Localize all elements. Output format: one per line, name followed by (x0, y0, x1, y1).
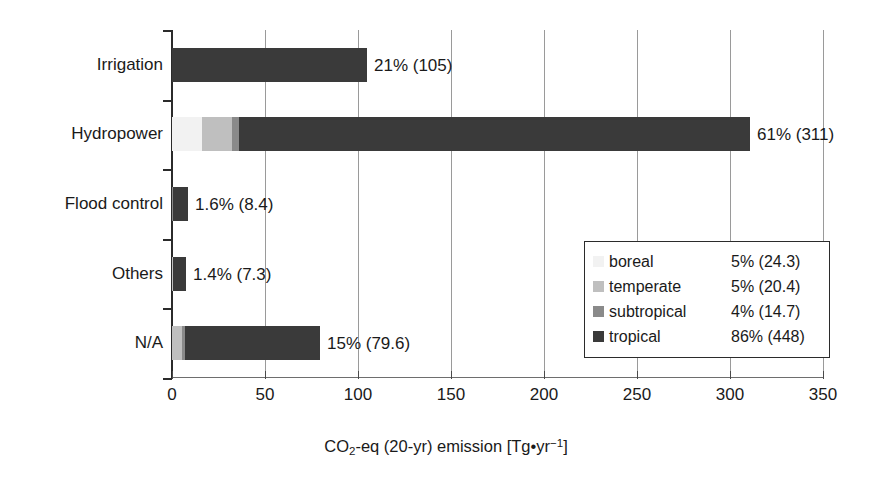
legend-label-subtropical: subtropical (609, 303, 731, 321)
x-axis-tick-label: 100 (328, 386, 388, 403)
legend-row[interactable]: subtropical4% (14.7) (593, 299, 819, 324)
x-axis-tick-label: 200 (514, 386, 574, 403)
x-axis-tick-label: 250 (607, 386, 667, 403)
x-axis-tick (265, 371, 266, 379)
legend-value-boreal: 5% (24.3) (731, 253, 800, 271)
bar-segment-boreal[interactable] (172, 117, 202, 151)
y-axis-tick (163, 30, 172, 32)
legend-row[interactable]: temperate5% (20.4) (593, 274, 819, 299)
x-axis-tick (451, 371, 452, 379)
legend-label-boreal: boreal (609, 253, 731, 271)
bar-segment-temperate[interactable] (202, 117, 233, 151)
x-axis-tick-label: 50 (235, 386, 295, 403)
bar-value-label: 21% (105) (374, 57, 452, 74)
x-axis-title-end: ] (563, 437, 568, 455)
bar-value-label: 15% (79.6) (327, 335, 410, 352)
y-axis-tick (163, 100, 172, 102)
legend-value-tropical: 86% (448) (731, 328, 805, 346)
bar-segment-tropical[interactable] (173, 257, 185, 291)
bar-row[interactable]: 1.6% (8.4) (0, 187, 892, 221)
legend-label-temperate: temperate (609, 278, 731, 296)
legend-value-temperate: 5% (20.4) (731, 278, 800, 296)
legend-swatch-temperate (593, 281, 604, 292)
legend-row[interactable]: boreal5% (24.3) (593, 249, 819, 274)
y-axis-tick (163, 169, 172, 171)
bar-row[interactable]: 61% (311) (0, 117, 892, 151)
x-axis-title-rest: -eq (20-yr) emission [Tg•yr (355, 437, 550, 455)
x-axis-title-main: CO (324, 437, 349, 455)
bar-value-label: 61% (311) (757, 126, 834, 143)
bar-segment-tropical[interactable] (173, 187, 188, 221)
chart-figure: IrrigationHydropowerFlood controlOthersN… (0, 0, 892, 490)
bar-segment-subtropical[interactable] (232, 117, 239, 151)
x-axis-tick-label: 0 (142, 386, 202, 403)
legend-row[interactable]: tropical86% (448) (593, 324, 819, 349)
x-axis-tick (637, 371, 638, 379)
legend-swatch-tropical (593, 331, 604, 342)
bar-segment-tropical[interactable] (185, 326, 320, 360)
x-axis-tick (730, 371, 731, 379)
x-axis-title-superscript: −1 (550, 437, 563, 449)
bar-segment-temperate[interactable] (172, 326, 182, 360)
y-axis-tick (163, 308, 172, 310)
x-axis-tick-label: 350 (793, 386, 853, 403)
bar-segment-tropical[interactable] (239, 117, 751, 151)
x-axis-tick-label: 300 (700, 386, 760, 403)
x-axis-tick (358, 371, 359, 379)
y-axis-tick (163, 378, 172, 380)
bar-segment-tropical[interactable] (172, 48, 367, 82)
x-axis-tick (172, 371, 173, 379)
legend-value-subtropical: 4% (14.7) (731, 303, 800, 321)
x-axis-tick-label: 150 (421, 386, 481, 403)
y-axis-tick (163, 239, 172, 241)
x-axis-title: CO2-eq (20-yr) emission [Tg•yr−1] (0, 437, 892, 457)
bar-value-label: 1.6% (8.4) (195, 196, 273, 213)
legend-label-tropical: tropical (609, 328, 731, 346)
legend-swatch-subtropical (593, 306, 604, 317)
x-axis-line (172, 377, 824, 378)
x-axis-tick (823, 371, 824, 379)
x-axis-tick (544, 371, 545, 379)
bar-value-label: 1.4% (7.3) (193, 266, 271, 283)
legend-swatch-boreal (593, 256, 604, 267)
legend-box: boreal5% (24.3)temperate5% (20.4)subtrop… (584, 241, 830, 358)
bar-row[interactable]: 21% (105) (0, 48, 892, 82)
